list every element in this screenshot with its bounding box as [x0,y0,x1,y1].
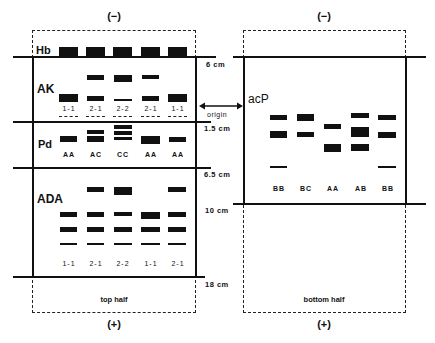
cathode-label-left: (−) [94,10,134,22]
band [141,227,160,232]
section-label-hb: Hb [36,44,51,56]
phenotype-label: 2-2 [108,260,138,267]
band [168,227,186,232]
band [270,115,287,120]
divider-top [233,56,426,58]
phenotype-label: 1-1 [163,105,193,112]
band [378,115,396,120]
band [87,75,104,80]
band [142,75,159,79]
phenotype-label: AA [163,151,193,158]
divider-18cm [13,276,205,278]
band [113,47,132,56]
band [114,99,132,101]
divider-origin [13,121,211,123]
top-half-label: top half [64,295,164,304]
phenotype-label: AB [346,185,376,192]
divider-6cm [13,56,216,58]
phenotype-label: AA [318,185,348,192]
band [141,212,160,219]
phenotype-label: 2-1 [81,105,111,112]
band [270,131,287,138]
band [87,212,104,217]
band [168,243,186,245]
phenotype-label: BB [264,185,294,192]
bottom-half-label: bottom half [274,295,374,304]
divider-10cm [233,203,426,205]
distance-18cm: 18 cm [205,280,229,289]
distance-6cm: 6 cm [206,60,225,69]
origin-mark [141,116,160,117]
band [168,212,186,217]
section-label-ak: AK [37,82,54,96]
phenotype-label: BC [291,185,321,192]
gel-right-edge [405,56,407,204]
band [60,212,77,217]
distance-10cm: 10 cm [205,206,229,215]
origin-label: origin [207,111,227,118]
band [324,144,341,152]
phenotype-label: 1-1 [136,260,166,267]
origin-mark [59,116,78,117]
phenotype-label: 2-1 [81,260,111,267]
band [87,227,104,232]
phenotype-label: BB [373,185,403,192]
section-label-ada: ADA [37,192,63,206]
section-label-acp: acP [248,92,269,106]
band [59,47,78,56]
band [141,243,160,245]
phenotype-label: 1-1 [54,105,84,112]
band [351,127,369,137]
gel-outline-dashed [32,30,196,313]
band [168,187,186,192]
divider-6-5cm [13,167,211,169]
phenotype-label: 2-2 [108,105,138,112]
band [351,144,369,151]
band [168,94,187,102]
phenotype-label: 2-1 [163,260,193,267]
section-label-pd: Pd [38,138,52,150]
phenotype-label: CC [108,151,138,158]
band [87,136,104,142]
double-arrow-icon [199,101,243,111]
band [114,75,132,82]
anode-label-left: (+) [94,318,134,330]
phenotype-label: AA [54,151,84,158]
band [60,243,77,245]
band [114,187,132,195]
band [297,114,314,121]
band [168,47,187,56]
origin-mark [86,116,105,117]
band [324,124,341,129]
phenotype-label: 1-1 [54,260,84,267]
band [87,96,104,101]
gel-outline-dashed [243,30,406,313]
phenotype-label: 2-1 [136,105,166,112]
band [141,47,160,56]
band [60,136,77,142]
distance-6-5cm: 6.5 cm [204,170,230,179]
band [378,166,396,168]
phenotype-label: AA [136,151,166,158]
band [87,130,104,134]
gel-right-edge [195,56,197,277]
origin-mark [113,116,132,117]
distance-1-5cm: 1.5 cm [204,124,230,133]
gel-left-edge [32,56,34,277]
cathode-label-right: (−) [304,10,344,22]
band [86,47,105,56]
band [351,113,369,118]
origin-mark [168,116,187,117]
band [114,212,132,216]
anode-label-right: (+) [304,318,344,330]
phenotype-label: AC [81,151,111,158]
band [270,166,287,168]
band [378,132,396,138]
band [297,132,314,137]
band [87,187,104,192]
gel-left-edge [243,56,245,204]
band [60,227,77,232]
band [114,125,132,129]
band [114,227,132,232]
band [87,243,104,245]
